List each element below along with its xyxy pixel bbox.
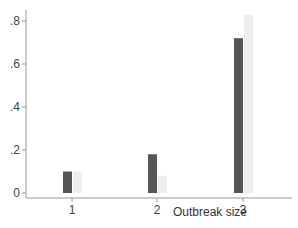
bars — [63, 15, 253, 193]
y-tick-label: .2 — [10, 143, 20, 157]
y-tick-label: .4 — [10, 100, 20, 114]
bar-light-2 — [158, 176, 167, 193]
x-axis-title: Outbreak size — [173, 205, 247, 219]
x-tick-label: 2 — [154, 203, 161, 217]
bar-dark-2 — [148, 154, 157, 193]
x-tick-label: 1 — [69, 203, 76, 217]
bar-chart: 0.2.4.6.8 123 Outbreak size — [0, 0, 298, 228]
y-tick-label: .6 — [10, 57, 20, 71]
y-tick-label: .8 — [10, 14, 20, 28]
y-axis: 0.2.4.6.8 — [10, 10, 26, 200]
bar-light-1 — [73, 172, 82, 194]
x-axis: 123 — [26, 198, 292, 217]
y-tick-label: 0 — [13, 186, 20, 200]
bar-dark-1 — [63, 172, 72, 194]
bar-dark-3 — [234, 38, 243, 193]
bar-light-3 — [244, 15, 253, 193]
